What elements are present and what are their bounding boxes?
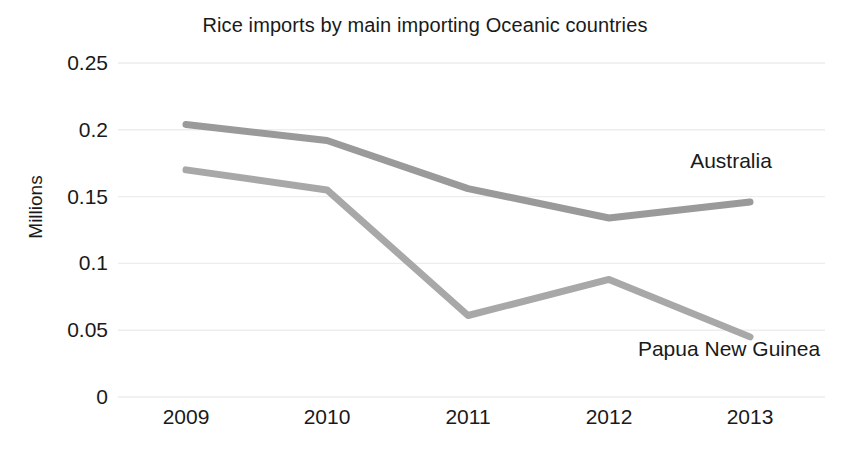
series-line-papua-new-guinea — [186, 170, 750, 337]
series-label-papua-new-guinea: Papua New Guinea — [638, 337, 820, 361]
chart-container: Rice imports by main importing Oceanic c… — [0, 0, 850, 460]
series-label-australia: Australia — [690, 149, 772, 173]
plot-area — [0, 0, 850, 460]
series-lines — [186, 124, 750, 336]
series-line-australia — [186, 124, 750, 218]
